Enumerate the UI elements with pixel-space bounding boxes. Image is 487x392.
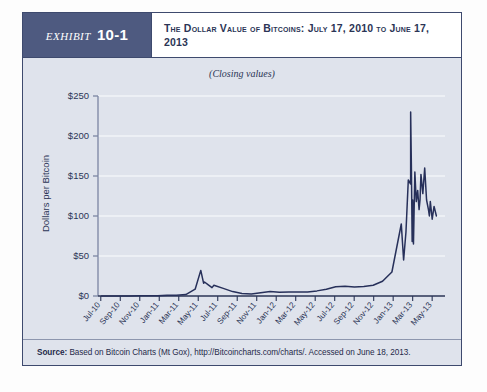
exhibit-page: Exhibit 10-1 The Dollar Value of Bitcoin… — [0, 0, 487, 392]
svg-text:Sep-11: Sep-11 — [215, 300, 239, 326]
source-bar: Source: Based on Bitcoin Charts (Mt Gox)… — [23, 339, 461, 365]
svg-text:Nov-10: Nov-10 — [117, 300, 141, 326]
bitcoin-price-line-chart: $0$50$100$150$200$250Jul-10Sep-10Nov-10J… — [23, 58, 463, 338]
source-note: Source: Based on Bitcoin Charts (Mt Gox)… — [37, 348, 411, 357]
source-label: Source: — [37, 348, 67, 357]
exhibit-header: Exhibit 10-1 The Dollar Value of Bitcoin… — [22, 12, 462, 58]
svg-text:$150: $150 — [68, 170, 89, 181]
svg-text:$200: $200 — [68, 130, 89, 141]
svg-text:Nov-11: Nov-11 — [235, 300, 259, 326]
svg-text:May-11: May-11 — [176, 300, 200, 327]
exhibit-title: The Dollar Value of Bitcoins: July 17, 2… — [164, 21, 451, 49]
exhibit-number: 10-1 — [97, 26, 128, 43]
svg-text:$100: $100 — [68, 210, 89, 221]
exhibit-tag: Exhibit 10-1 — [22, 12, 152, 58]
svg-text:May-13: May-13 — [409, 300, 434, 327]
svg-text:Nov-12: Nov-12 — [351, 300, 375, 326]
exhibit-label: Exhibit — [46, 27, 91, 44]
chart-area: Dollars per Bitcoin $0$50$100$150$200$25… — [23, 58, 463, 338]
svg-text:$0: $0 — [78, 290, 89, 301]
y-axis-label: Dollars per Bitcoin — [40, 124, 51, 264]
exhibit-title-box: The Dollar Value of Bitcoins: July 17, 2… — [152, 12, 462, 58]
source-body: Based on Bitcoin Charts (Mt Gox), http:/… — [69, 348, 410, 357]
svg-text:$250: $250 — [68, 90, 89, 101]
svg-text:May-12: May-12 — [292, 300, 317, 327]
exhibit-panel: (Closing values) Dollars per Bitcoin $0$… — [22, 58, 462, 366]
svg-text:$50: $50 — [73, 250, 89, 261]
